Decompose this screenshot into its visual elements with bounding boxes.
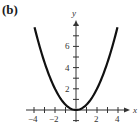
y-axis-label: y (71, 8, 76, 18)
y-tick-label: 2 (65, 84, 70, 94)
x-tick-label: 2 (94, 114, 99, 124)
x-tick-label: 4 (115, 114, 120, 124)
x-tick-label: −2 (49, 114, 59, 124)
y-tick-label: 6 (65, 41, 70, 51)
y-tick-label: 4 (65, 63, 70, 73)
parabola-chart: −4−224246 x y (0, 0, 140, 134)
x-tick-label: −4 (28, 114, 38, 124)
x-axis-label: x (132, 105, 137, 115)
x-axis-arrow-icon (124, 108, 130, 113)
